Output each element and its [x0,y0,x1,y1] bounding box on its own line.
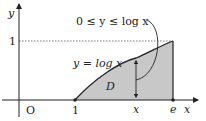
log-area-diagram: y 1 O 1 x e x y = log x D 0 ≤ y ≤ log x [0,0,206,121]
x-tick-x: x [133,104,139,115]
y-axis-label: y [8,8,14,19]
y-tick-one: 1 [9,36,16,47]
region-d [75,41,173,100]
x-axis-label: x [184,104,190,115]
region-label: D [106,81,115,92]
curve-label: y = log x [73,58,122,69]
x-tick-one: 1 [72,105,79,116]
x-tick-e: e [170,104,177,115]
inequality-label: 0 ≤ y ≤ log x [76,16,149,27]
origin-label: O [26,105,35,116]
